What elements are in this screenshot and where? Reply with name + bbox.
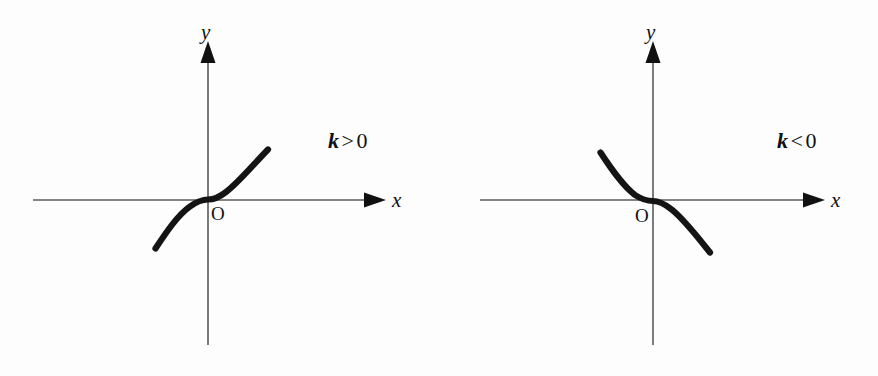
cubic-functions-figure: y x O k>0 y x O k<0: [0, 0, 878, 376]
condition-value: 0: [805, 128, 817, 153]
x-axis-arrowhead-icon: [803, 193, 825, 208]
y-axis-arrowhead-icon: [201, 41, 216, 63]
curve-cubic-decreasing: [601, 153, 711, 253]
chart-svg-k-negative: [439, 0, 878, 376]
condition-relation: >: [340, 128, 357, 153]
y-axis-arrowhead-icon: [646, 41, 661, 63]
condition-relation: <: [789, 128, 806, 153]
chart-panel-k-negative: y x O k<0: [439, 0, 878, 376]
y-axis-label: y: [201, 22, 210, 43]
y-axis-label: y: [646, 22, 655, 43]
x-axis-arrowhead-icon: [364, 193, 386, 208]
chart-svg-k-positive: [0, 0, 439, 376]
x-axis-label: x: [392, 190, 401, 211]
condition-value: 0: [356, 128, 368, 153]
chart-panel-k-positive: y x O k>0: [0, 0, 439, 376]
condition-variable: k: [777, 128, 789, 153]
x-axis-label: x: [831, 190, 840, 211]
origin-label: O: [635, 206, 649, 225]
condition-label-k-negative: k<0: [777, 130, 817, 152]
origin-label: O: [211, 204, 225, 223]
curve-cubic-increasing: [156, 150, 269, 249]
condition-variable: k: [328, 128, 340, 153]
condition-label-k-positive: k>0: [328, 130, 368, 152]
